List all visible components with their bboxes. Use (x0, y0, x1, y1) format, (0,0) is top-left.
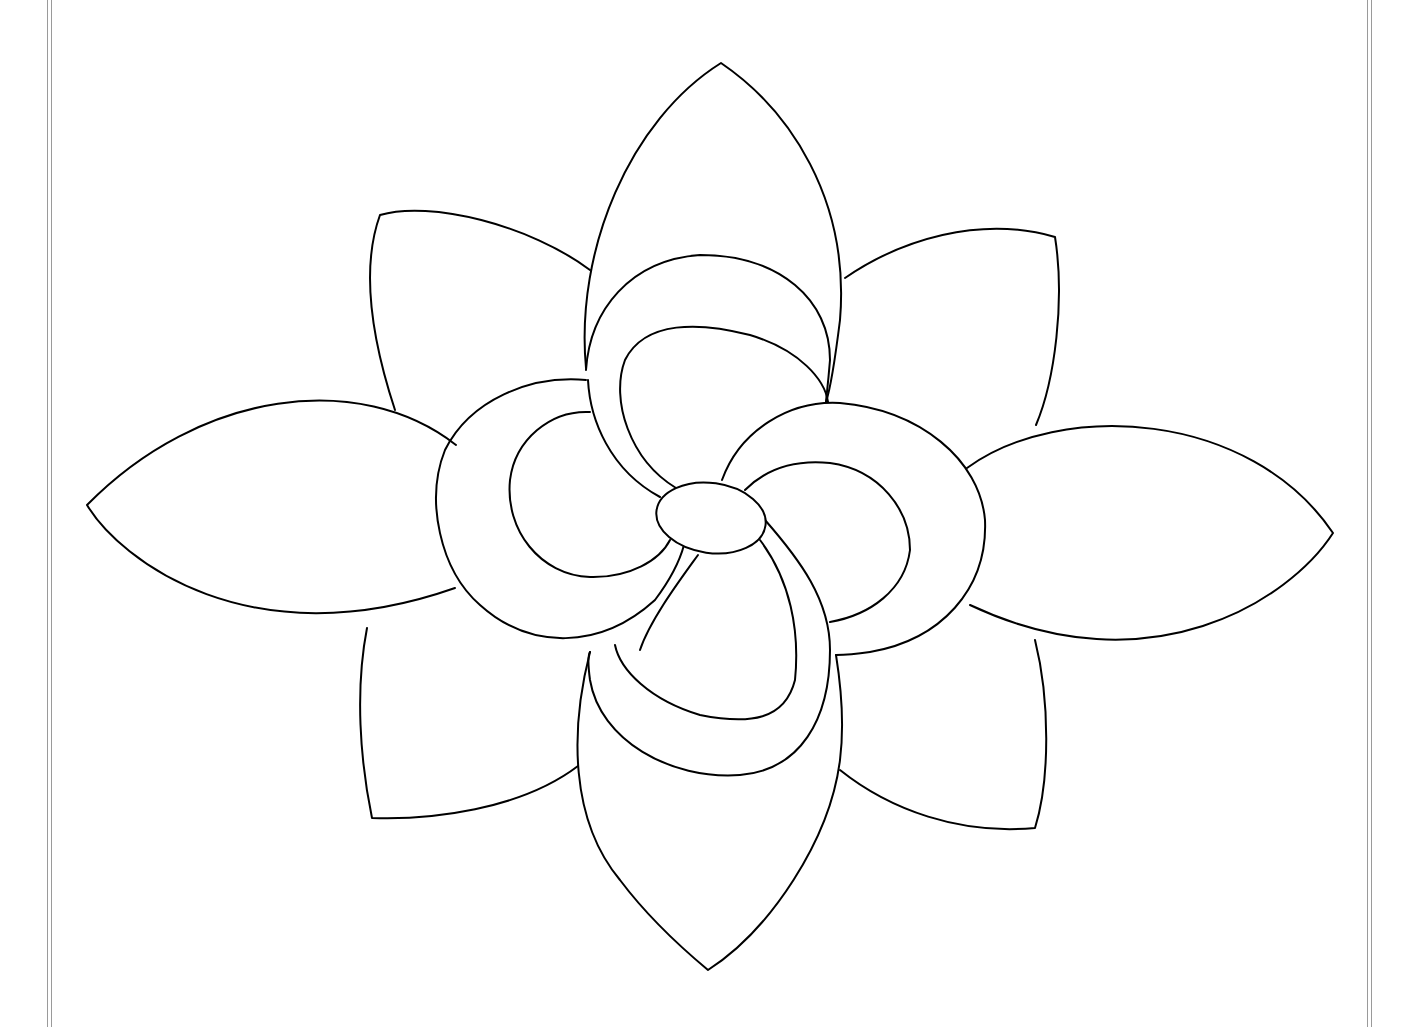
petal-top (585, 63, 841, 402)
swirl-left-inner (510, 412, 670, 577)
swirl-top-mid (588, 380, 660, 497)
swirl-top-outer (586, 255, 830, 402)
swirl-right-inner (745, 462, 910, 622)
petal-lower-right (840, 640, 1046, 829)
swirl-bottom-connector (640, 555, 698, 650)
flower-drawing (0, 0, 1406, 1027)
petal-bottom (578, 652, 843, 970)
petal-right (967, 426, 1333, 640)
swirl-left-outer (436, 379, 684, 638)
petal-upper-right (845, 229, 1059, 425)
petal-lower-left (360, 628, 578, 818)
petal-left (87, 401, 456, 614)
swirl-bottom-outer (589, 520, 831, 775)
flower-center (652, 476, 771, 561)
